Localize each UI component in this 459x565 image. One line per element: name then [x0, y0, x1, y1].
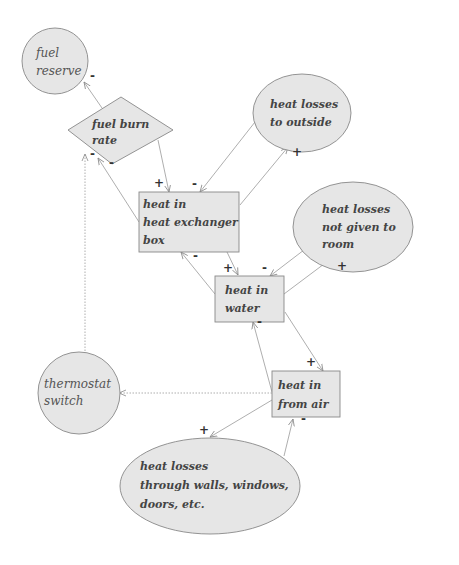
label-burn-2: rate: [92, 134, 117, 147]
edge-walls-to-air: [284, 419, 293, 456]
label-walls-2: through walls, windows,: [140, 479, 289, 492]
node-heat-losses-outside: [253, 74, 351, 152]
label-room-1: heat losses: [322, 203, 390, 216]
label-room-3: room: [322, 238, 354, 251]
sign: -: [109, 156, 114, 170]
edge-water-to-air: [285, 312, 323, 371]
label-outside-2: to outside: [270, 116, 332, 129]
label-exchanger-2: heat exchanger: [143, 216, 239, 229]
label-exchanger-1: heat in: [143, 198, 186, 211]
label-thermostat-1: thermostat: [44, 377, 111, 391]
label-thermostat-2: switch: [44, 394, 84, 408]
edge-air-to-walls: [210, 400, 272, 437]
label-air-1: heat in: [278, 379, 321, 392]
label-burn-1: fuel burn: [91, 118, 149, 131]
label-exchanger-3: box: [143, 234, 165, 247]
sign: -: [193, 249, 198, 263]
sign: -: [90, 147, 95, 161]
label-room-2: not given to: [322, 221, 396, 234]
sign: -: [257, 315, 262, 329]
sign: +: [154, 176, 164, 190]
node-heat-water: [215, 276, 284, 322]
label-walls-3: doors, etc.: [140, 498, 205, 511]
edge-air-to-water: [253, 322, 272, 392]
label-outside-1: heat losses: [270, 98, 338, 111]
sign: +: [199, 423, 209, 437]
sign: -: [262, 261, 267, 275]
causal-loop-diagram: fuel reserve fuel burn rate heat losses …: [0, 0, 459, 565]
sign: +: [306, 355, 316, 369]
edge-exchanger-to-burn: [98, 158, 139, 222]
edge-water-to-exchanger: [181, 252, 215, 294]
node-fuel-reserve: [22, 28, 88, 94]
sign: +: [337, 259, 347, 273]
label-fuel-reserve-2: reserve: [36, 64, 82, 78]
label-walls-1: heat losses: [140, 460, 208, 473]
sign: +: [223, 261, 233, 275]
label-water-1: heat in: [225, 284, 268, 297]
sign: +: [292, 145, 302, 159]
edge-burn-to-reserve: [84, 82, 102, 108]
label-air-2: from air: [277, 398, 330, 411]
sign: -: [301, 412, 306, 426]
sign: -: [192, 177, 197, 191]
label-water-2: water: [225, 302, 261, 315]
node-thermostat: [38, 352, 120, 434]
sign: -: [90, 69, 95, 83]
edge-outside-to-exchanger: [200, 122, 255, 192]
label-fuel-reserve-1: fuel: [35, 46, 59, 60]
edge-exchanger-to-outside: [240, 147, 288, 205]
